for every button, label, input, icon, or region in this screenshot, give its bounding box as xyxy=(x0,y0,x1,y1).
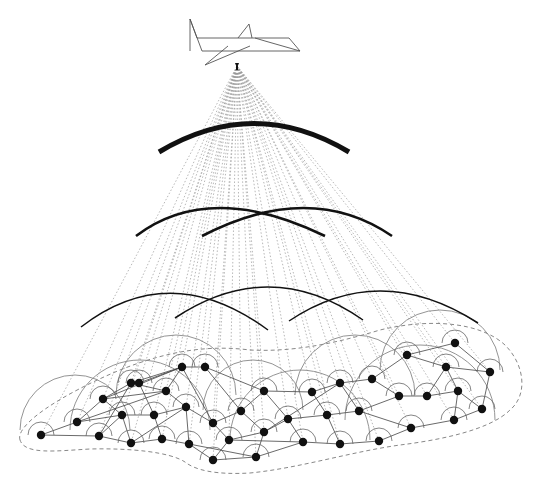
network-link xyxy=(303,442,340,444)
coverage-arc xyxy=(345,345,495,420)
network-link xyxy=(213,457,256,460)
signal-ray xyxy=(237,66,312,392)
sensor-node xyxy=(182,403,190,411)
network-link xyxy=(458,391,482,409)
signal-ray xyxy=(189,66,237,444)
sensor-node xyxy=(118,411,126,419)
coverage-arc xyxy=(203,360,303,410)
signal-ray xyxy=(122,66,237,415)
sensor-node xyxy=(454,387,462,395)
network-link xyxy=(99,436,131,443)
network-link xyxy=(327,411,359,415)
sensor-node xyxy=(37,431,45,439)
sensor-node xyxy=(237,407,245,415)
network-nodes xyxy=(37,339,494,464)
network-link xyxy=(229,432,264,440)
signal-ray xyxy=(237,66,359,411)
aircraft-icon xyxy=(190,19,300,70)
signal-ray xyxy=(237,66,241,411)
sensor-node xyxy=(284,415,292,423)
network-link xyxy=(186,407,189,444)
network-link xyxy=(41,422,77,435)
sensor-node xyxy=(486,368,494,376)
sensor-node xyxy=(450,416,458,424)
network-link xyxy=(154,407,186,415)
diagram-canvas xyxy=(0,0,540,492)
sensor-node xyxy=(260,428,268,436)
sensor-node xyxy=(260,387,268,395)
sensor-node xyxy=(73,418,81,426)
signal-ray xyxy=(77,66,237,422)
signal-ray xyxy=(237,66,288,419)
signal-ray xyxy=(237,66,455,343)
sensor-node xyxy=(209,419,217,427)
sensor-node xyxy=(127,379,135,387)
signal-ray xyxy=(166,66,237,391)
network-link xyxy=(241,391,264,411)
sensor-node xyxy=(395,392,403,400)
network-link xyxy=(41,435,99,436)
sensor-node xyxy=(185,440,193,448)
signal-ray xyxy=(154,66,237,415)
signal-ray xyxy=(237,66,446,367)
sensor-node xyxy=(135,379,143,387)
sensor-node xyxy=(299,438,307,446)
sensor-node xyxy=(225,436,233,444)
sensor-node xyxy=(355,407,363,415)
network-link xyxy=(327,415,340,444)
sensor-node xyxy=(407,424,415,432)
sensor-node xyxy=(150,411,158,419)
sensor-node xyxy=(95,432,103,440)
network-link xyxy=(411,420,454,428)
sensor-node xyxy=(336,440,344,448)
network-link xyxy=(454,391,458,420)
sensor-node xyxy=(375,437,383,445)
network-link xyxy=(407,355,446,367)
sensor-node xyxy=(209,456,217,464)
sensor-node xyxy=(308,388,316,396)
signal-ray xyxy=(237,66,482,409)
sensor-node xyxy=(323,411,331,419)
signal-ray xyxy=(237,66,458,391)
signal-ray xyxy=(237,66,340,383)
network-links xyxy=(41,343,490,460)
sensor-node xyxy=(201,363,209,371)
sensor-node xyxy=(178,363,186,371)
signal-ray xyxy=(237,66,372,379)
network-link xyxy=(454,409,482,420)
coverage-arcs xyxy=(20,310,500,440)
network-link xyxy=(427,391,458,396)
network-link xyxy=(340,441,379,444)
signal-ray xyxy=(237,66,264,432)
network-link xyxy=(264,383,340,432)
network-link xyxy=(241,411,264,432)
network-link xyxy=(229,440,303,442)
signal-ray xyxy=(237,66,454,420)
signal-ray xyxy=(237,66,399,396)
sensor-node xyxy=(478,405,486,413)
wavefront-tier-2 xyxy=(202,208,392,236)
sensor-node xyxy=(442,363,450,371)
network-link xyxy=(213,411,241,423)
sensor-node xyxy=(252,453,260,461)
network-link xyxy=(256,442,303,457)
network-link xyxy=(340,383,359,411)
network-link xyxy=(455,343,490,372)
sensor-node xyxy=(368,375,376,383)
network-link xyxy=(446,367,490,372)
signal-ray xyxy=(205,66,237,367)
sensor-node xyxy=(403,351,411,359)
sensor-node xyxy=(336,379,344,387)
network-link xyxy=(379,428,411,441)
sensor-node xyxy=(451,339,459,347)
network-link xyxy=(340,379,372,383)
signal-ray xyxy=(237,66,327,415)
network-link xyxy=(264,391,312,392)
network-link xyxy=(288,415,327,419)
sensor-node xyxy=(423,392,431,400)
signal-ray xyxy=(237,66,407,355)
network-link xyxy=(312,383,340,392)
sensor-node xyxy=(99,395,107,403)
sensor-node xyxy=(127,439,135,447)
sensor-node xyxy=(158,435,166,443)
